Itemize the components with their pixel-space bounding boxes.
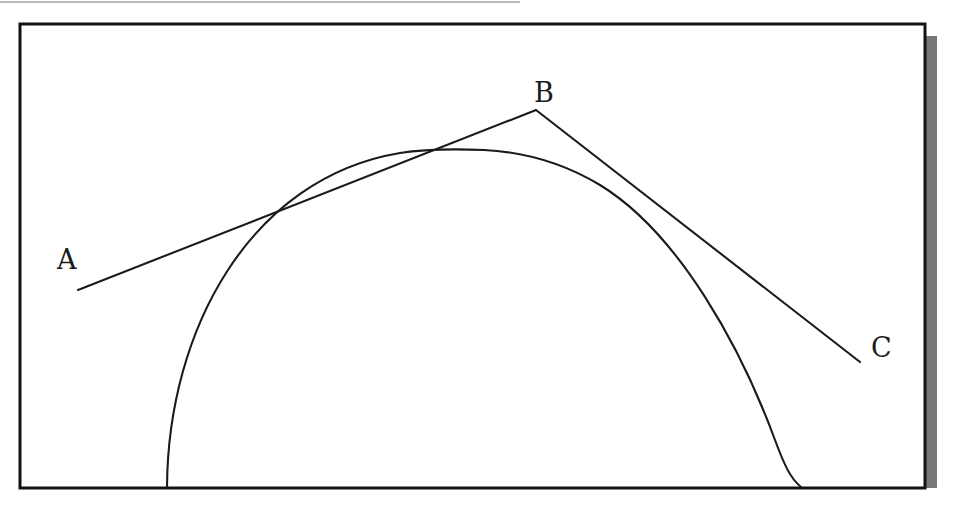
- point-label-c: C: [871, 334, 892, 361]
- point-label-a: A: [57, 246, 77, 273]
- drawing-frame-border: [20, 24, 925, 488]
- figure-canvas: A B C: [0, 0, 955, 514]
- point-label-b: B: [534, 79, 554, 106]
- figure-drawing: [0, 0, 955, 514]
